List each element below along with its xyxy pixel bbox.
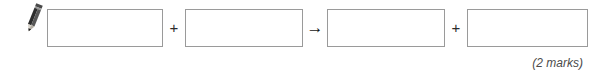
answer-box-4[interactable] — [467, 9, 588, 47]
equation-row: + → + — [47, 9, 583, 47]
answer-box-3[interactable] — [327, 9, 445, 47]
question-row: + → + (2 marks) — [0, 0, 597, 75]
pencil-icon — [22, 2, 46, 36]
answer-box-1[interactable] — [47, 9, 163, 47]
operator-arrow-icon: → — [303, 9, 327, 47]
marks-label: (2 marks) — [532, 56, 583, 70]
operator-plus-2: + — [445, 9, 467, 47]
answer-box-2[interactable] — [185, 9, 303, 47]
operator-plus-1: + — [163, 9, 185, 47]
